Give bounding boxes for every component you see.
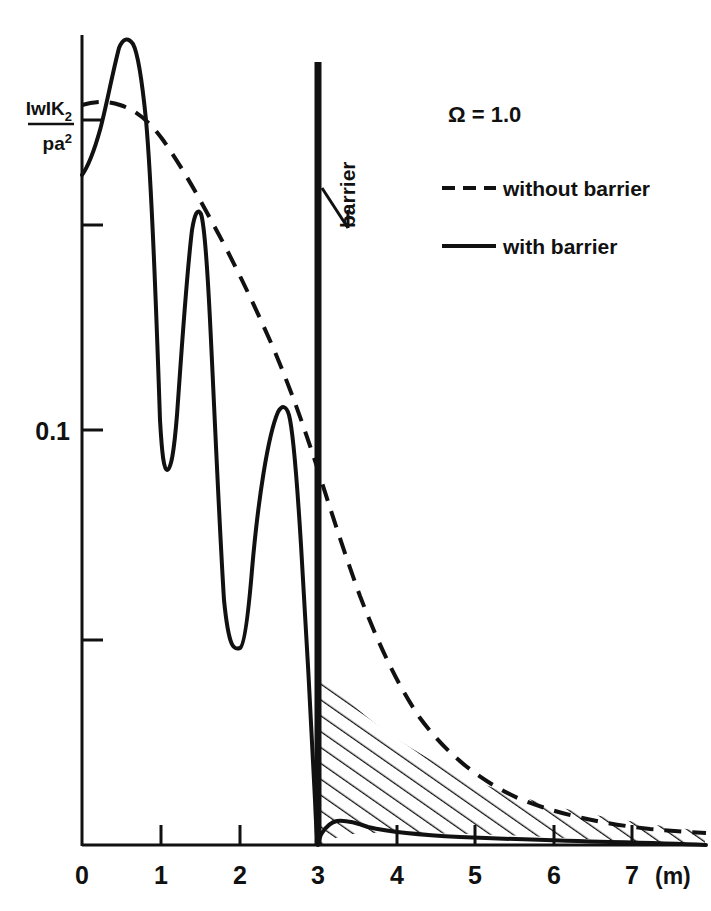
svg-text:IwIK2: IwIK2 (26, 98, 72, 124)
barrier-label: barrier (336, 161, 359, 228)
x-tick-label-1: 1 (154, 861, 168, 889)
y-tick-label-0.1: 0.1 (35, 417, 70, 445)
y-axis-title-numerator-subscript: 2 (65, 109, 72, 124)
legend-label-with-barrier: with barrier (502, 235, 617, 258)
legend-item-without-barrier: without barrier (442, 177, 650, 200)
x-tick-label-3: 3 (311, 861, 325, 889)
shaded-insertion-loss-region (318, 672, 705, 845)
legend-label-without-barrier: without barrier (502, 177, 650, 200)
x-tick-label-7: 7 (625, 861, 639, 889)
x-tick-label-5: 5 (468, 861, 482, 889)
x-axis-unit-label: (m) (655, 863, 691, 889)
y-axis-title-denominator-superscript: 2 (65, 131, 72, 146)
curve-without-barrier (82, 102, 706, 833)
x-tick-label-4: 4 (390, 861, 404, 889)
omega-annotation: Ω = 1.0 (448, 102, 521, 127)
y-axis-ticks (82, 120, 103, 640)
chart-canvas: 0 1 2 3 4 5 6 7 (m) 0.1 IwIK2 pa2 (0, 0, 711, 911)
figure-root: 0 1 2 3 4 5 6 7 (m) 0.1 IwIK2 pa2 (0, 0, 711, 911)
x-tick-label-6: 6 (547, 861, 561, 889)
x-tick-label-0: 0 (75, 861, 89, 889)
svg-text:pa2: pa2 (43, 131, 72, 154)
legend-item-with-barrier: with barrier (442, 235, 617, 258)
y-axis-title-denominator: pa (43, 133, 66, 154)
x-tick-label-2: 2 (233, 861, 247, 889)
y-axis-title: IwIK2 pa2 (26, 98, 74, 154)
y-axis-title-numerator: IwIK (26, 98, 65, 119)
